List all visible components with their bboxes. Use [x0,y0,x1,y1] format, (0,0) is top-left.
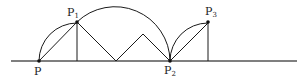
geometry-diagram: P P1 P2 P3 [0,0,308,78]
point-p2 [168,59,172,63]
point-p1 [75,20,79,24]
label-p: P [34,65,42,78]
zigzag-path [77,22,170,61]
point-p [37,59,41,63]
point-p3 [206,20,210,24]
label-p1: P1 [67,6,79,20]
label-p3: P3 [205,5,217,19]
chord-p2-p3 [170,23,208,61]
diagram-svg: P P1 P2 P3 [0,0,308,78]
label-p2: P2 [164,64,176,78]
